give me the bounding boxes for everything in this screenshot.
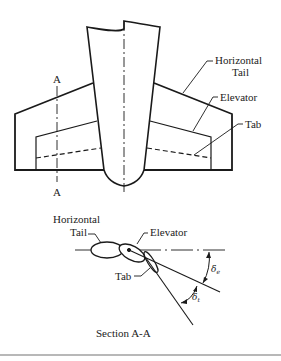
leader-section-elevator — [137, 233, 148, 244]
elevator-chord-line — [129, 250, 220, 292]
top-view-labels: Horizontal Tail Elevator Tab A A — [53, 54, 262, 198]
leader-tab — [194, 124, 243, 155]
elevator-airfoil — [116, 240, 147, 266]
label-horizontal-tail-2: Tail — [232, 66, 249, 78]
leader-section-tab — [134, 268, 150, 276]
section-view — [75, 233, 229, 325]
label-delta-e: δe — [211, 264, 220, 275]
right-tail-outline — [144, 83, 232, 170]
section-caption: Section A-A — [96, 327, 151, 339]
label-tab: Tab — [245, 118, 262, 130]
section-label-horizontal-tail-2: Tail — [70, 226, 87, 238]
tab-chord-line — [146, 258, 193, 325]
section-label-tab: Tab — [115, 270, 132, 282]
left-elevator-outline — [36, 121, 97, 170]
leader-horizontal-tail — [183, 61, 213, 93]
fuselage-outline — [87, 21, 160, 186]
leader-section-tail — [88, 234, 101, 243]
leader-elevator — [193, 97, 218, 131]
top-view — [15, 21, 243, 192]
right-elevator-outline — [150, 121, 211, 170]
tab-airfoil — [142, 250, 160, 274]
section-label-horizontal-tail-1: Horizontal — [53, 213, 100, 225]
label-horizontal-tail-1: Horizontal — [215, 54, 262, 66]
section-mark-top: A — [53, 73, 61, 85]
label-delta-t: δt — [192, 292, 200, 303]
label-elevator: Elevator — [220, 91, 258, 103]
bottom-rule — [0, 354, 281, 356]
left-tail-outline — [15, 83, 104, 170]
left-tab-hinge — [36, 148, 101, 158]
tail-airfoil — [91, 242, 123, 258]
section-label-elevator: Elevator — [150, 226, 188, 238]
section-mark-bottom: A — [53, 186, 61, 198]
tail-diagram: Horizontal Tail Elevator Tab A A — [0, 0, 281, 361]
